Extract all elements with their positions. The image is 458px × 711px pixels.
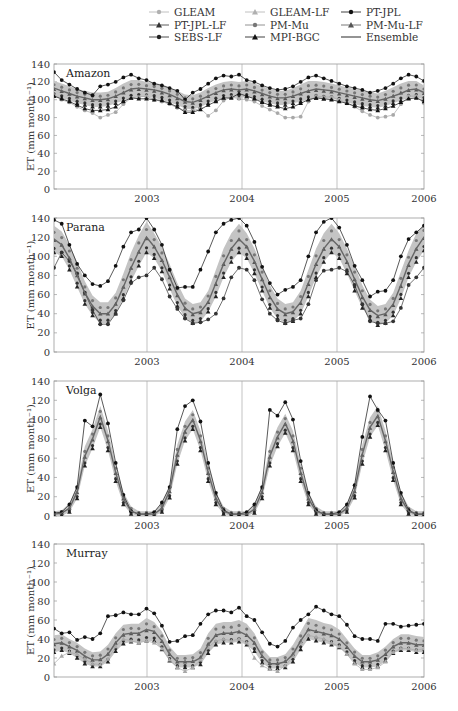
y-tick-label: 140 [31, 539, 50, 550]
y-tick-label: 80 [37, 112, 50, 123]
x-tick-label: 2006 [411, 356, 436, 367]
y-tick-label: 40 [37, 148, 50, 159]
x-tick-label: 2005 [324, 193, 349, 204]
x-tick-label: 2005 [324, 681, 349, 692]
x-tick-label: 2006 [411, 520, 436, 531]
x-tick-label: 2004 [229, 356, 254, 367]
y-tick-label: 40 [37, 634, 50, 645]
x-tick-label: 2003 [134, 520, 159, 531]
y-tick-label: 60 [37, 289, 50, 300]
figure: 0204060801001201402003200420052006ET (mm… [0, 0, 458, 711]
x-tick-label: 2003 [134, 681, 159, 692]
y-axis-label: ET (mm month⁻¹) [25, 566, 36, 655]
y-axis-label: ET (mm month⁻¹) [25, 404, 36, 493]
y-tick-label: 80 [37, 433, 50, 444]
y-tick-label: 0 [44, 511, 50, 522]
y-tick-label: 20 [37, 653, 50, 664]
panel-title: Volga [65, 384, 97, 397]
y-tick-label: 80 [37, 596, 50, 607]
series-pt-jpl [52, 393, 426, 516]
x-tick-label: 2005 [324, 520, 349, 531]
x-tick-label: 2004 [229, 520, 254, 531]
y-tick-label: 20 [37, 491, 50, 502]
panel-amazon: 0204060801001201402003200420052006ET (mm… [25, 59, 437, 205]
y-tick-label: 40 [37, 472, 50, 483]
y-tick-label: 60 [37, 130, 50, 141]
y-axis-label: ET (mm month⁻¹) [25, 82, 36, 171]
y-axis-label: ET (mm month⁻¹) [25, 241, 36, 330]
y-tick-label: 140 [31, 213, 50, 224]
y-tick-label: 20 [37, 166, 50, 177]
x-tick-label: 2003 [134, 193, 159, 204]
y-tick-label: 0 [44, 184, 50, 195]
x-tick-label: 2005 [324, 356, 349, 367]
panel-title: Amazon [65, 67, 110, 80]
x-tick-label: 2006 [411, 193, 436, 204]
x-tick-label: 2004 [229, 193, 254, 204]
y-tick-label: 140 [31, 59, 50, 70]
y-tick-label: 0 [44, 672, 50, 683]
y-tick-label: 60 [37, 453, 50, 464]
panel-volga: 0204060801001201402003200420052006ET (mm… [25, 376, 437, 532]
y-tick-label: 140 [31, 376, 50, 387]
y-tick-label: 20 [37, 327, 50, 338]
y-tick-label: 0 [44, 347, 50, 358]
x-tick-label: 2003 [134, 356, 159, 367]
panel-title: Murray [66, 547, 108, 560]
x-tick-label: 2006 [411, 681, 436, 692]
y-tick-label: 80 [37, 270, 50, 281]
panel-title: Parana [66, 221, 105, 234]
x-tick-label: 2004 [229, 681, 254, 692]
panel-murray: 0204060801001201402003200420052006ET (mm… [25, 539, 437, 693]
y-tick-label: 40 [37, 308, 50, 319]
panel-parana: 0204060801001201402003200420052006ET (mm… [25, 213, 437, 368]
y-tick-label: 60 [37, 615, 50, 626]
